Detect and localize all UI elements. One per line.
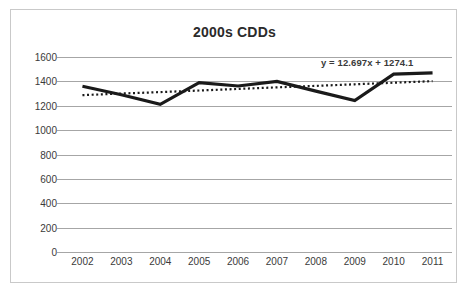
y-tick-label: 1400 [35,76,57,87]
chart-screenshot: 2000s CDDs 02004006008001000120014001600… [0,0,468,296]
x-tick-label: 2004 [149,256,171,267]
x-tick-label: 2002 [71,256,93,267]
x-tick-label: 2003 [110,256,132,267]
y-axis-tick-labels: 02004006008001000120014001600 [19,57,57,252]
y-tick-label: 1000 [35,125,57,136]
x-tick-label: 2008 [305,256,327,267]
y-tick-label: 400 [40,198,57,209]
series-layer [63,57,452,252]
y-tick-label: 1600 [35,52,57,63]
x-tick-label: 2009 [344,256,366,267]
y-tick-label: 200 [40,222,57,233]
x-axis-tick-labels: 2002200320042005200620072008200920102011 [63,256,452,274]
chart-frame: 2000s CDDs 02004006008001000120014001600… [10,9,457,283]
y-axis-tick-mark [57,252,63,253]
x-tick-label: 2011 [422,256,444,267]
y-tick-label: 1200 [35,100,57,111]
chart-title: 2000s CDDs [11,24,458,40]
x-tick-label: 2007 [266,256,288,267]
trendline-equation-label: y = 12.697x + 1274.1 [321,57,413,68]
x-tick-label: 2010 [383,256,405,267]
y-tick-label: 600 [40,173,57,184]
x-tick-label: 2006 [227,256,249,267]
plot-area [63,57,452,252]
gridline [63,252,452,253]
y-tick-label: 800 [40,149,57,160]
x-tick-label: 2005 [188,256,210,267]
